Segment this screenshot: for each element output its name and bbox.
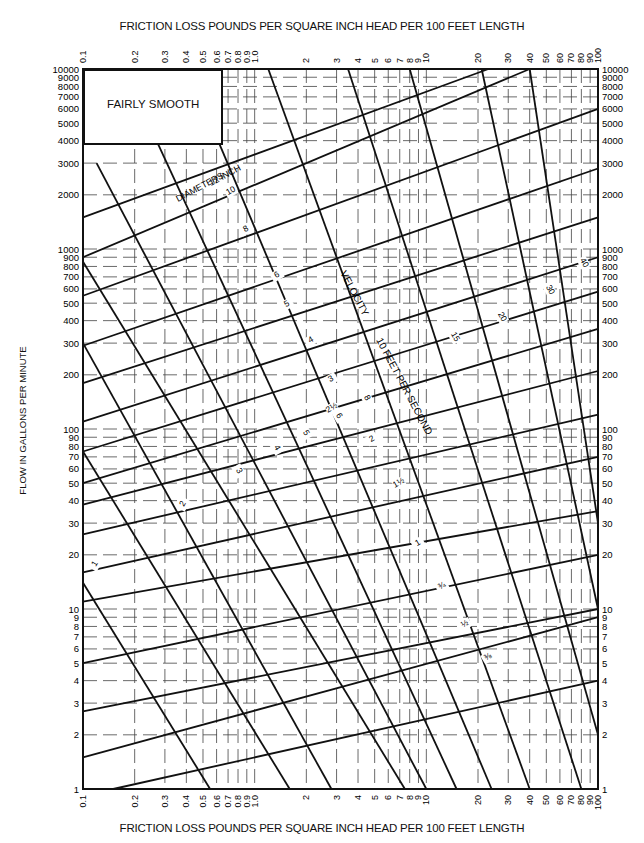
svg-text:50: 50	[602, 478, 613, 489]
svg-text:4: 4	[353, 795, 363, 800]
svg-text:3: 3	[602, 698, 607, 709]
svg-text:40: 40	[525, 795, 535, 805]
svg-text:6: 6	[74, 643, 79, 654]
svg-text:300: 300	[63, 338, 79, 349]
svg-text:3: 3	[332, 58, 342, 63]
svg-text:0.4: 0.4	[181, 795, 191, 808]
svg-text:6000: 6000	[602, 103, 623, 114]
svg-text:10: 10	[421, 53, 431, 63]
svg-text:50: 50	[541, 795, 551, 805]
svg-text:70: 70	[68, 451, 79, 462]
svg-text:30: 30	[68, 518, 79, 529]
svg-text:800: 800	[602, 261, 618, 272]
svg-text:60: 60	[555, 795, 565, 805]
svg-text:7: 7	[74, 631, 79, 642]
svg-text:10: 10	[421, 795, 431, 805]
svg-text:8000: 8000	[58, 81, 79, 92]
svg-text:60: 60	[68, 463, 79, 474]
svg-text:4000: 4000	[602, 135, 623, 146]
svg-text:6: 6	[383, 58, 393, 63]
svg-text:5: 5	[74, 658, 79, 669]
svg-text:70: 70	[566, 795, 576, 805]
svg-text:1: 1	[74, 784, 79, 795]
svg-text:7: 7	[395, 58, 405, 63]
svg-text:0.1: 0.1	[78, 50, 88, 63]
svg-text:30: 30	[602, 518, 613, 529]
bottom-axis-title: FRICTION LOSS POUNDS PER SQUARE INCH HEA…	[0, 822, 644, 834]
svg-text:5: 5	[370, 58, 380, 63]
svg-text:0.7: 0.7	[223, 50, 233, 63]
svg-text:0.4: 0.4	[181, 50, 191, 63]
svg-text:500: 500	[602, 298, 618, 309]
svg-text:4: 4	[74, 675, 79, 686]
svg-text:70: 70	[566, 53, 576, 63]
svg-text:8: 8	[602, 621, 607, 632]
svg-text:300: 300	[602, 338, 618, 349]
svg-text:50: 50	[541, 53, 551, 63]
svg-text:0.2: 0.2	[130, 795, 140, 808]
svg-text:7: 7	[395, 795, 405, 800]
svg-text:7000: 7000	[602, 91, 623, 102]
svg-text:400: 400	[602, 315, 618, 326]
svg-text:0.6: 0.6	[212, 50, 222, 63]
svg-text:3: 3	[332, 795, 342, 800]
svg-text:5: 5	[602, 658, 607, 669]
svg-text:20: 20	[68, 549, 79, 560]
svg-text:40: 40	[68, 495, 79, 506]
svg-text:50: 50	[68, 478, 79, 489]
svg-text:700: 700	[602, 271, 618, 282]
svg-text:6: 6	[602, 643, 607, 654]
svg-text:3: 3	[74, 698, 79, 709]
svg-text:60: 60	[602, 463, 613, 474]
svg-text:0.6: 0.6	[212, 795, 222, 808]
svg-text:1: 1	[602, 784, 607, 795]
svg-text:700: 700	[63, 271, 79, 282]
svg-text:4: 4	[353, 58, 363, 63]
svg-text:30: 30	[503, 795, 513, 805]
svg-text:0.7: 0.7	[223, 795, 233, 808]
svg-text:5: 5	[370, 795, 380, 800]
svg-text:20: 20	[602, 549, 613, 560]
svg-text:2: 2	[301, 58, 311, 63]
svg-text:2000: 2000	[602, 189, 623, 200]
legend-box: FAIRLY SMOOTH	[83, 69, 223, 145]
svg-text:2000: 2000	[58, 189, 79, 200]
svg-text:500: 500	[63, 298, 79, 309]
velocity-lines	[83, 69, 598, 789]
svg-text:4: 4	[602, 675, 607, 686]
svg-text:80: 80	[602, 441, 613, 452]
svg-text:0.5: 0.5	[198, 795, 208, 808]
svg-text:1.0: 1.0	[250, 50, 260, 63]
svg-text:400: 400	[63, 315, 79, 326]
svg-text:2: 2	[74, 729, 79, 740]
svg-text:200: 200	[63, 369, 79, 380]
svg-text:6000: 6000	[58, 103, 79, 114]
svg-text:0.1: 0.1	[78, 795, 88, 808]
svg-text:8000: 8000	[602, 81, 623, 92]
svg-text:600: 600	[602, 283, 618, 294]
svg-text:8: 8	[74, 621, 79, 632]
line-labels: 10865432½21½1¾½⅜123456815203040	[88, 184, 591, 665]
svg-text:1.0: 1.0	[250, 795, 260, 808]
svg-text:70: 70	[602, 451, 613, 462]
svg-text:80: 80	[68, 441, 79, 452]
svg-text:3000: 3000	[58, 158, 79, 169]
svg-text:2: 2	[301, 795, 311, 800]
svg-text:0.3: 0.3	[160, 50, 170, 63]
svg-text:7: 7	[602, 631, 607, 642]
svg-text:60: 60	[555, 53, 565, 63]
svg-text:6: 6	[383, 795, 393, 800]
svg-text:15: 15	[449, 330, 463, 343]
svg-text:7000: 7000	[58, 91, 79, 102]
svg-text:5000: 5000	[602, 118, 623, 129]
svg-text:600: 600	[63, 283, 79, 294]
svg-text:200: 200	[602, 369, 618, 380]
svg-text:20: 20	[473, 795, 483, 805]
svg-text:100: 100	[593, 48, 603, 63]
svg-text:20: 20	[473, 53, 483, 63]
svg-text:100: 100	[593, 795, 603, 810]
svg-text:30: 30	[503, 53, 513, 63]
svg-text:5000: 5000	[58, 118, 79, 129]
svg-text:1½: 1½	[391, 475, 406, 490]
svg-text:40: 40	[578, 256, 592, 269]
